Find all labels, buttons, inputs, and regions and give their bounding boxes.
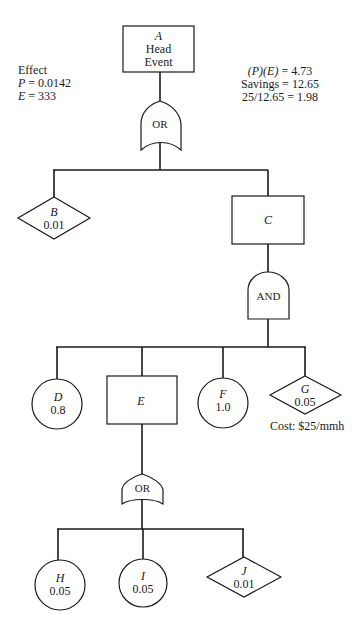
node-j-diamond: J 0.01: [207, 557, 281, 597]
and-gate-label: AND: [257, 290, 281, 302]
node-d-value: 0.8: [51, 403, 66, 417]
node-b-id: B: [50, 205, 58, 219]
node-i-value: 0.05: [133, 582, 154, 596]
calc-pe-value: = 4.73: [278, 64, 312, 78]
node-c-rectangle: C: [232, 196, 304, 244]
calc-annotation: (P)(E) = 4.73 Savings = 12.65 25/12.65 =…: [219, 65, 341, 104]
node-a-id: A: [154, 29, 163, 43]
node-j-id: J: [241, 564, 247, 578]
node-a-line2: Event: [145, 55, 174, 69]
and-gate: AND: [248, 272, 289, 319]
effect-e-line: E = 333: [18, 90, 71, 103]
node-e-rectangle: E: [107, 376, 177, 424]
node-g-value: 0.05: [295, 395, 316, 409]
or-gate-1-label: OR: [152, 118, 168, 130]
node-a-line1: Head: [146, 42, 171, 56]
effect-annotation: Effect P = 0.0142 E = 333: [18, 64, 71, 103]
or-gate-2: OR: [122, 474, 163, 504]
node-h-value: 0.05: [50, 584, 71, 598]
or-gate-1: OR: [141, 101, 181, 150]
node-d-id: D: [53, 390, 63, 404]
node-j-value: 0.01: [234, 577, 255, 591]
node-f-circle: F 1.0: [198, 378, 248, 428]
node-e-id: E: [136, 394, 145, 408]
effect-e-value: = 333: [25, 89, 56, 103]
node-h-id: H: [55, 571, 66, 585]
node-b-diamond: B 0.01: [18, 197, 90, 239]
node-f-id: F: [218, 387, 227, 401]
cost-annotation: Cost: $25/mmh: [270, 420, 344, 433]
node-c-id: C: [264, 213, 273, 227]
calc-ratio: 25/12.65 = 1.98: [219, 91, 341, 104]
node-b-value: 0.01: [44, 218, 65, 232]
node-h-circle: H 0.05: [35, 560, 85, 610]
node-f-value: 1.0: [216, 400, 231, 414]
node-d-circle: D 0.8: [32, 379, 82, 429]
node-i-circle: I 0.05: [119, 559, 167, 607]
or-gate-2-label: OR: [135, 482, 151, 494]
calc-pe-expr: (P)(E): [248, 64, 279, 78]
node-a-head-event: A Head Event: [123, 26, 194, 72]
node-g-diamond: G 0.05: [270, 376, 341, 414]
node-g-id: G: [301, 382, 310, 396]
effect-p-value: = 0.0142: [25, 76, 71, 90]
